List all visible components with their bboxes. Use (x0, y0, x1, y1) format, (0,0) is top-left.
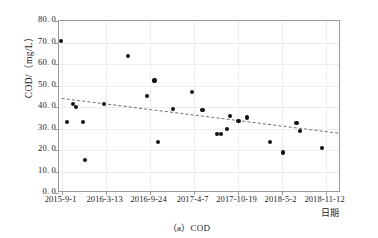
x-axis-tick-label: 2018-11-12 (290, 194, 360, 204)
data-point (152, 78, 156, 82)
y-axis-tick-label: 50. 0 (0, 80, 56, 89)
y-axis-tick-label: 10. 0 (0, 166, 56, 175)
y-axis-tick-label: 70. 0 (0, 37, 56, 46)
figure-caption: （a）COD (0, 221, 378, 234)
trendline (59, 21, 341, 193)
y-axis-tick-label: 80. 0 (0, 15, 56, 24)
data-point (245, 115, 249, 119)
data-point (268, 140, 272, 144)
plot-area (58, 20, 340, 192)
data-point (126, 54, 130, 58)
y-axis-tick-label: 60. 0 (0, 58, 56, 67)
data-layer (59, 21, 339, 191)
data-point (200, 108, 204, 112)
data-point (298, 129, 302, 133)
y-axis-tick-label: 30. 0 (0, 123, 56, 132)
data-point (59, 39, 63, 43)
x-axis-title: 日期 (300, 206, 360, 219)
y-axis-tick-label: 40. 0 (0, 101, 56, 110)
figure-cod-scatter: COD/（mg/L） 0. 010. 020. 030. 040. 050. 0… (0, 0, 378, 238)
data-point (171, 107, 175, 111)
y-axis-tick-label: 20. 0 (0, 144, 56, 153)
data-point (145, 94, 149, 98)
